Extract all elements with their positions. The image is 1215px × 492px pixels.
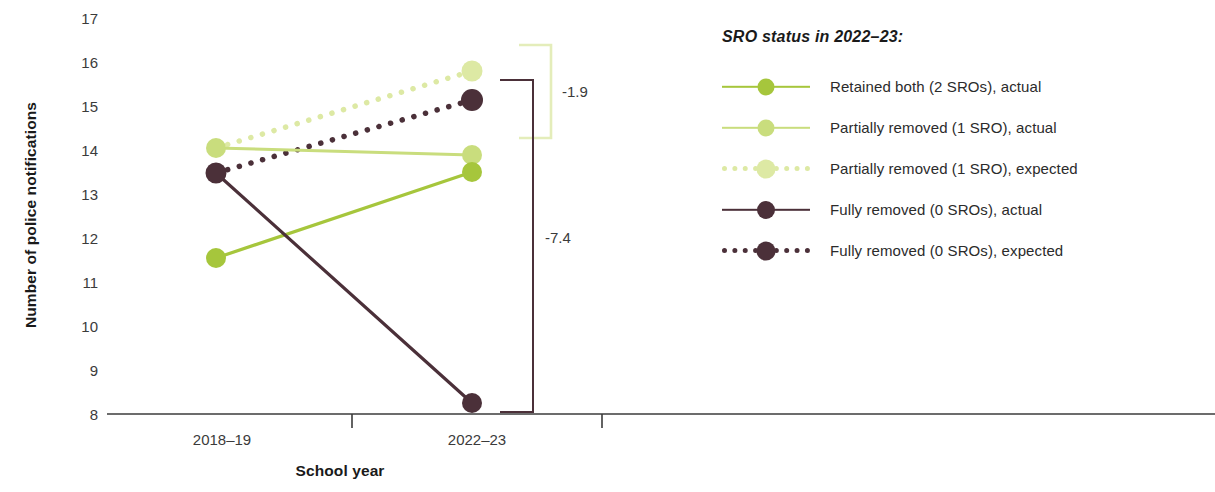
series-line-fully-removed-actual	[216, 173, 472, 403]
data-point-retained-both-2018	[206, 248, 226, 268]
series-line-partially-removed-actual	[216, 148, 472, 155]
data-point-partially-removed-2018	[206, 138, 226, 158]
legend: SRO status in 2022–23: Retained both (2 …	[722, 28, 1192, 271]
legend-item-partially-removed-actual[interactable]: Partially removed (1 SRO), actual	[722, 107, 1192, 148]
dotted-line-marker-icon	[722, 240, 810, 262]
bracket-minus-1-9	[519, 45, 551, 138]
legend-title: SRO status in 2022–23:	[722, 28, 1192, 46]
annotation-label-top: -1.9	[562, 84, 588, 99]
data-point-fully-removed-expected-2022	[461, 89, 483, 111]
dotted-line-marker-icon	[722, 158, 810, 180]
legend-label: Fully removed (0 SROs), expected	[830, 242, 1063, 259]
line-marker-icon	[722, 199, 810, 221]
data-point-partially-removed-expected-2022	[462, 61, 483, 82]
legend-label: Fully removed (0 SROs), actual	[830, 201, 1042, 218]
legend-item-retained-both-actual[interactable]: Retained both (2 SROs), actual	[722, 66, 1192, 107]
data-point-fully-removed-2018	[206, 163, 227, 184]
legend-label: Retained both (2 SROs), actual	[830, 78, 1041, 95]
legend-item-fully-removed-expected[interactable]: Fully removed (0 SROs), expected	[722, 230, 1192, 271]
annotation-label-bottom: -7.4	[545, 230, 571, 245]
legend-item-partially-removed-expected[interactable]: Partially removed (1 SRO), expected	[722, 148, 1192, 189]
line-marker-icon	[722, 76, 810, 98]
line-marker-icon	[722, 117, 810, 139]
line-chart: Number of police notifications School ye…	[0, 0, 1215, 492]
data-point-retained-both-2022	[462, 162, 482, 182]
series-line-retained-both-actual	[216, 172, 472, 258]
legend-label: Partially removed (1 SRO), actual	[830, 119, 1057, 136]
bracket-minus-7-4	[500, 80, 533, 412]
legend-item-fully-removed-actual[interactable]: Fully removed (0 SROs), actual	[722, 189, 1192, 230]
legend-label: Partially removed (1 SRO), expected	[830, 160, 1078, 177]
data-point-fully-removed-2022	[462, 393, 482, 413]
